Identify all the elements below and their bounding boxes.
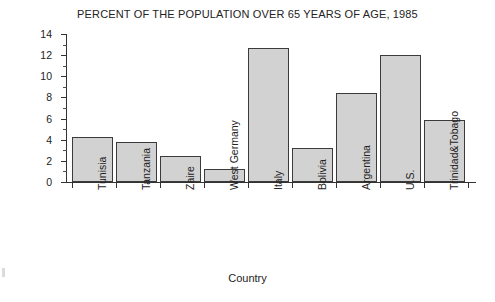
x-category-label: Italy (273, 171, 284, 190)
y-tick-label: 12 (40, 50, 52, 61)
y-tick-label: 0 (46, 177, 52, 188)
y-tick-major (61, 161, 67, 162)
y-tick-minor (63, 87, 67, 88)
y-tick-major (61, 76, 67, 77)
y-tick-major (61, 182, 67, 183)
y-tick-major (61, 140, 67, 141)
x-category-label: Tanzania (141, 148, 152, 190)
y-tick-label: 10 (40, 71, 52, 82)
x-tick (424, 183, 425, 188)
y-tick-minor (63, 45, 67, 46)
bar (380, 55, 421, 182)
y-tick-minor (63, 66, 67, 67)
y-tick-label: 6 (46, 113, 52, 124)
y-tick-major (61, 34, 67, 35)
y-tick-major (61, 55, 67, 56)
y-tick-minor (63, 171, 67, 172)
plot-area: 02468101214 (66, 34, 476, 182)
x-category-label: Trinidad&Tobago (449, 111, 460, 190)
bar (248, 48, 289, 182)
x-category-label: West Germany (229, 120, 240, 190)
y-tick-label: 8 (46, 92, 52, 103)
y-tick-minor (63, 129, 67, 130)
chart-title: PERCENT OF THE POPULATION OVER 65 YEARS … (0, 8, 495, 20)
x-tick (72, 183, 73, 188)
x-tick (204, 183, 205, 188)
y-tick-minor (63, 108, 67, 109)
y-tick-minor (63, 150, 67, 151)
scan-artifact (2, 268, 5, 277)
x-tick (116, 183, 117, 188)
x-category-label: Bolivia (317, 159, 328, 190)
y-tick-label: 4 (46, 134, 52, 145)
x-tick (292, 183, 293, 188)
x-category-label: Argentina (361, 145, 372, 190)
y-tick-major (61, 97, 67, 98)
y-tick-major (61, 119, 67, 120)
x-tick-end (468, 183, 469, 188)
x-tick (248, 183, 249, 188)
x-tick (160, 183, 161, 188)
x-category-label: Zaire (185, 166, 196, 190)
x-tick (380, 183, 381, 188)
x-axis-title: Country (0, 272, 495, 284)
x-tick (336, 183, 337, 188)
y-tick-label: 2 (46, 156, 52, 167)
x-category-label: U.S. (405, 170, 416, 190)
y-tick-label: 14 (40, 29, 52, 40)
x-category-label: Tunisia (97, 157, 108, 190)
chart-figure: PERCENT OF THE POPULATION OVER 65 YEARS … (0, 0, 495, 302)
